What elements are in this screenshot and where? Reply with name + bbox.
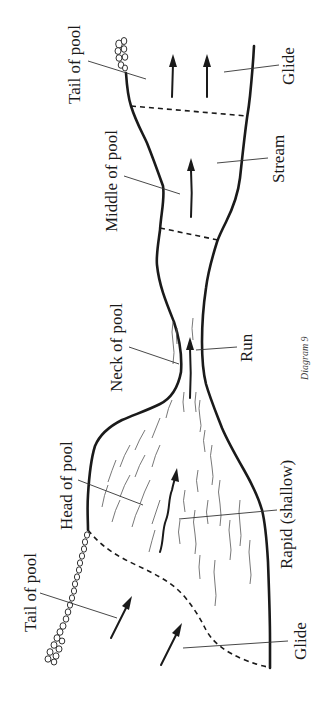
leader-tail-bottom [40,593,117,618]
flow-arrow-icon [169,54,177,97]
label-stream: Stream [269,135,288,183]
label-rapid-shallow: Rapid (shallow) [277,460,296,569]
leader-tail-top [88,61,146,79]
flow-arrow-icon [160,468,179,552]
flow-arrow-icon [187,158,195,217]
divider-bottom-glide [88,530,268,667]
flow-arrow-icon [186,337,194,398]
right-bank [202,46,270,668]
label-glide-bottom: Glide [291,622,310,660]
pebbles-top-icon [115,38,128,72]
label-tail-of-pool-bottom: Tail of pool [21,553,40,632]
label-head-of-pool: Head of pool [57,441,76,530]
leader-glide-bottom [183,641,288,648]
leader-neck [129,347,179,364]
river-pool-diagram: Tail of pool Glide Middle of pool Stream… [0,0,327,715]
label-neck-of-pool: Neck of pool [107,303,126,392]
label-run: Run [237,333,256,362]
label-glide-top: Glide [279,47,298,85]
diagram-caption: Diagram 9 [299,336,310,381]
divider-tail-middle [131,106,247,116]
divider-middle-neck [160,228,218,240]
flow-arrow-icon [203,54,211,97]
label-middle-of-pool: Middle of pool [102,130,121,232]
leader-middle [124,176,180,194]
flow-arrow-icon [161,623,182,665]
pebbles-bottom-icon [45,532,90,665]
label-tail-of-pool-top: Tail of pool [65,25,84,104]
